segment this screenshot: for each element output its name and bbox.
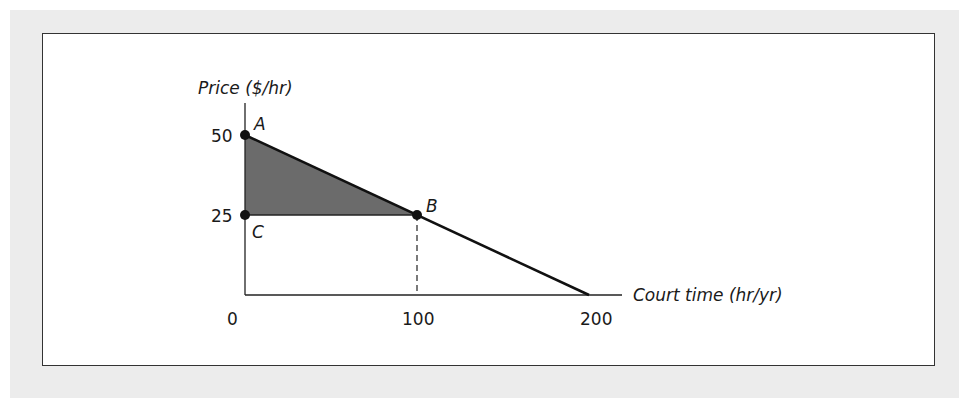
point-c-label: C <box>252 222 264 242</box>
x-tick-0: 0 <box>227 309 238 329</box>
demand-chart: Price ($/hr) Court time (hr/yr) 50 25 0 … <box>0 0 959 398</box>
y-tick-25: 25 <box>211 206 233 226</box>
point-a-label: A <box>253 114 266 134</box>
point-c-marker <box>240 210 250 220</box>
x-axis-label: Court time (hr/yr) <box>633 285 783 305</box>
x-tick-200: 200 <box>580 309 612 329</box>
point-b-label: B <box>426 196 438 216</box>
x-tick-100: 100 <box>402 309 434 329</box>
y-axis-label: Price ($/hr) <box>198 78 293 98</box>
point-a-marker <box>240 130 250 140</box>
y-tick-50: 50 <box>211 126 233 146</box>
point-b-marker <box>412 210 422 220</box>
